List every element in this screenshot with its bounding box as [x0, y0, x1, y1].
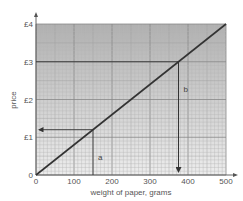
x-tick-label: 400	[181, 177, 195, 186]
y-axis-arrow-icon	[34, 12, 38, 17]
y-tick-label: £2	[24, 96, 33, 105]
y-tick-label: 0	[29, 171, 34, 180]
x-tick-label: 300	[143, 177, 157, 186]
x-tick-label: 500	[219, 177, 233, 186]
annotation-b-label: b	[184, 85, 189, 94]
x-axis-label: weight of paper, grams	[90, 188, 172, 197]
chart: ab 01002003004005000£1£2£3£4 weight of p…	[0, 0, 243, 201]
x-tick-label: 0	[34, 177, 39, 186]
x-tick-label: 100	[67, 177, 81, 186]
y-tick-label: £1	[24, 133, 33, 142]
annotation-a-label: a	[98, 153, 103, 162]
y-tick-label: £4	[24, 20, 33, 29]
y-tick-label: £3	[24, 58, 33, 67]
y-axis-label: price	[9, 91, 18, 109]
x-axis-arrow-icon	[233, 173, 238, 177]
x-tick-label: 200	[105, 177, 119, 186]
